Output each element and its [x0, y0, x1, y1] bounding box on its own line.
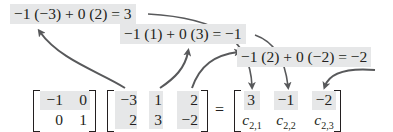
matrix-a-cell-1-1: −1 [41, 90, 63, 110]
c22-sub: 2,2 [283, 120, 296, 131]
matrix-c-cell-1-3: −2 [312, 90, 336, 110]
matrix-c-cell-1-2: −1 [274, 90, 298, 110]
matrix-b-cell-2-1: 2 [115, 110, 137, 130]
matrix-b: −3 1 2 2 3 −2 [107, 90, 207, 130]
matrix-a-right-bracket [89, 90, 96, 132]
matrix-c-right-bracket [334, 90, 341, 132]
matrix-a: −1 0 0 1 [33, 90, 95, 130]
arrow-eq3-to-c13 [325, 70, 375, 86]
matrix-c-cell-2-1: c2,1 [238, 110, 266, 130]
matrix-b-cell-1-2: 1 [149, 90, 162, 110]
equation-c11: −1 (−3) + 0 (2) = 3 [10, 4, 136, 24]
equation-c12: −1 (1) + 0 (3) = −1 [120, 24, 246, 44]
arrow-col1-to-eq1 [40, 32, 125, 88]
arrow-col3-to-eq3 [192, 52, 238, 88]
equation-c13: −1 (2) + 0 (−2) = −2 [237, 47, 371, 67]
c23-sub: 2,3 [321, 120, 334, 131]
matrix-b-right-bracket [201, 90, 208, 132]
equals-sign: = [215, 100, 224, 120]
matrix-b-cell-1-3: 2 [177, 90, 198, 110]
matrix-c-cell-2-2: c2,2 [272, 110, 300, 130]
matrix-a-cell-2-1: 0 [41, 110, 63, 130]
matrix-b-left-bracket [107, 90, 114, 132]
c21-sub: 2,1 [249, 120, 262, 131]
matrix-a-cell-2-2: 1 [69, 110, 87, 130]
matrix-c-cell-1-1: 3 [244, 90, 258, 110]
matrix-a-cell-1-2: 0 [69, 90, 87, 110]
matrix-b-cell-2-3: −2 [177, 110, 198, 130]
matrix-a-left-bracket [33, 90, 40, 132]
matrix-b-cell-1-1: −3 [115, 90, 137, 110]
matrix-b-cell-2-2: 3 [149, 110, 162, 130]
matrix-c: 3 −1 −2 c2,1 c2,2 c2,3 [234, 90, 340, 130]
arrow-col2-to-eq2 [160, 52, 188, 88]
